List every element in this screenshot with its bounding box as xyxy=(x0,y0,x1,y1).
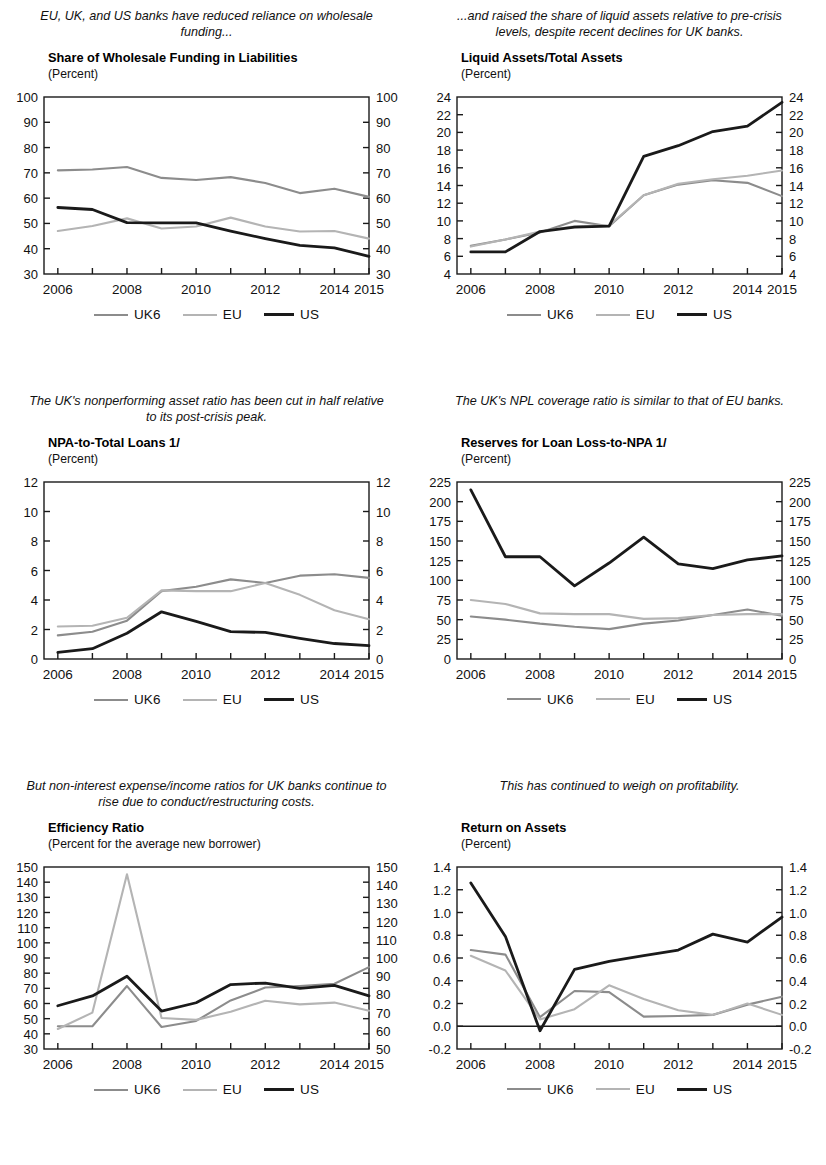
panel-titleblock: Reserves for Loan Loss-to-NPA 1/ (Percen… xyxy=(413,425,826,468)
svg-text:2006: 2006 xyxy=(43,667,73,682)
panel-wholesale-funding: EU, UK, and US banks have reduced relian… xyxy=(0,0,413,385)
svg-text:40: 40 xyxy=(24,1027,38,1042)
svg-text:24: 24 xyxy=(789,90,803,105)
svg-text:20: 20 xyxy=(437,125,451,140)
panel-caption: ...and raised the share of liquid assets… xyxy=(413,0,826,40)
svg-text:2008: 2008 xyxy=(525,1057,555,1072)
chart-units: (Percent) xyxy=(461,452,826,468)
svg-text:130: 130 xyxy=(16,890,38,905)
svg-text:1.4: 1.4 xyxy=(433,860,451,875)
svg-text:2012: 2012 xyxy=(250,1057,280,1072)
svg-text:60: 60 xyxy=(24,997,38,1012)
svg-text:2012: 2012 xyxy=(663,1057,693,1072)
chart-legend: UK6 EU US xyxy=(413,692,826,707)
line-chart-svg: 0255075100125150175200225025507510012515… xyxy=(413,474,826,689)
legend-swatch-uk6 xyxy=(94,314,128,316)
svg-text:2006: 2006 xyxy=(43,282,73,297)
chart-units: (Percent) xyxy=(461,67,826,83)
legend-label-us: US xyxy=(713,1082,732,1097)
svg-text:2015: 2015 xyxy=(767,667,797,682)
svg-text:6: 6 xyxy=(789,249,796,264)
svg-text:16: 16 xyxy=(437,161,451,176)
svg-text:150: 150 xyxy=(429,534,451,549)
line-chart-svg: -0.20.00.20.40.60.81.01.21.4-0.20.00.20.… xyxy=(413,859,826,1079)
panel-efficiency-ratio: But non-interest expense/income ratios f… xyxy=(0,770,413,1165)
svg-text:90: 90 xyxy=(376,969,390,984)
svg-text:2012: 2012 xyxy=(250,282,280,297)
svg-text:30: 30 xyxy=(24,267,38,282)
legend-swatch-uk6 xyxy=(507,314,541,316)
svg-text:1.0: 1.0 xyxy=(433,905,451,920)
svg-text:1.0: 1.0 xyxy=(789,905,807,920)
svg-text:70: 70 xyxy=(24,981,38,996)
chart-legend: UK6 EU US xyxy=(0,1082,413,1097)
svg-text:0.6: 0.6 xyxy=(789,951,807,966)
svg-text:2014: 2014 xyxy=(732,282,763,297)
legend-label-us: US xyxy=(713,692,732,707)
svg-text:18: 18 xyxy=(789,143,803,158)
line-chart-svg: 4681012141618202224468101214161820222420… xyxy=(413,89,826,304)
panel-npa-to-loans: The UK's nonperforming asset ratio has b… xyxy=(0,385,413,770)
legend-swatch-uk6 xyxy=(94,1089,128,1091)
svg-text:2014: 2014 xyxy=(732,1057,763,1072)
chart-title: Efficiency Ratio xyxy=(48,820,413,836)
legend-item-uk6: UK6 xyxy=(507,307,574,322)
panel-liquid-assets: ...and raised the share of liquid assets… xyxy=(413,0,826,385)
svg-text:8: 8 xyxy=(31,534,38,549)
svg-text:2014: 2014 xyxy=(319,282,350,297)
svg-text:0.0: 0.0 xyxy=(789,1019,807,1034)
svg-text:50: 50 xyxy=(24,1012,38,1027)
legend-swatch-uk6 xyxy=(94,699,128,701)
svg-text:30: 30 xyxy=(24,1042,38,1057)
svg-text:16: 16 xyxy=(789,161,803,176)
svg-text:12: 12 xyxy=(789,196,803,211)
svg-text:2006: 2006 xyxy=(456,282,486,297)
legend-item-uk6: UK6 xyxy=(507,692,574,707)
line-chart-svg: 3040506070809010030405060708090100200620… xyxy=(0,89,413,304)
legend-swatch-eu xyxy=(183,699,217,701)
svg-text:8: 8 xyxy=(376,534,383,549)
svg-text:24: 24 xyxy=(437,90,451,105)
svg-text:0: 0 xyxy=(444,652,451,667)
svg-text:0.4: 0.4 xyxy=(789,974,807,989)
chart-title: Return on Assets xyxy=(461,820,826,836)
legend-item-uk6: UK6 xyxy=(507,1082,574,1097)
svg-text:10: 10 xyxy=(376,505,390,520)
legend-label-eu: EU xyxy=(223,307,242,322)
legend-item-eu: EU xyxy=(596,307,655,322)
chart-legend: UK6 EU US xyxy=(0,692,413,707)
svg-text:0.4: 0.4 xyxy=(433,974,451,989)
svg-text:2010: 2010 xyxy=(594,282,624,297)
svg-text:4: 4 xyxy=(376,593,383,608)
svg-text:60: 60 xyxy=(24,191,38,206)
svg-text:0: 0 xyxy=(789,652,796,667)
svg-text:150: 150 xyxy=(16,860,38,875)
svg-text:200: 200 xyxy=(789,495,811,510)
svg-text:150: 150 xyxy=(376,860,398,875)
legend-item-us: US xyxy=(677,1082,732,1097)
svg-text:90: 90 xyxy=(24,951,38,966)
legend-label-eu: EU xyxy=(636,692,655,707)
panel-reserves-loan-loss: The UK's NPL coverage ratio is similar t… xyxy=(413,385,826,770)
chart-title: Reserves for Loan Loss-to-NPA 1/ xyxy=(461,435,826,451)
legend-swatch-us xyxy=(677,1088,707,1091)
legend-label-eu: EU xyxy=(223,1082,242,1097)
plot-area: 3040506070809010030405060708090100200620… xyxy=(0,89,413,304)
svg-text:2008: 2008 xyxy=(525,282,555,297)
svg-text:175: 175 xyxy=(429,514,451,529)
svg-text:2014: 2014 xyxy=(732,667,763,682)
legend-label-us: US xyxy=(300,307,319,322)
svg-text:140: 140 xyxy=(16,875,38,890)
legend-item-uk6: UK6 xyxy=(94,692,161,707)
svg-text:6: 6 xyxy=(31,564,38,579)
legend-swatch-eu xyxy=(596,698,630,700)
svg-text:50: 50 xyxy=(376,1042,390,1057)
svg-text:60: 60 xyxy=(376,1024,390,1039)
svg-text:110: 110 xyxy=(376,933,397,948)
legend-swatch-us xyxy=(677,698,707,701)
svg-text:70: 70 xyxy=(24,166,38,181)
legend-item-us: US xyxy=(264,307,319,322)
svg-text:12: 12 xyxy=(24,475,38,490)
svg-text:50: 50 xyxy=(789,613,803,628)
svg-text:20: 20 xyxy=(789,125,803,140)
